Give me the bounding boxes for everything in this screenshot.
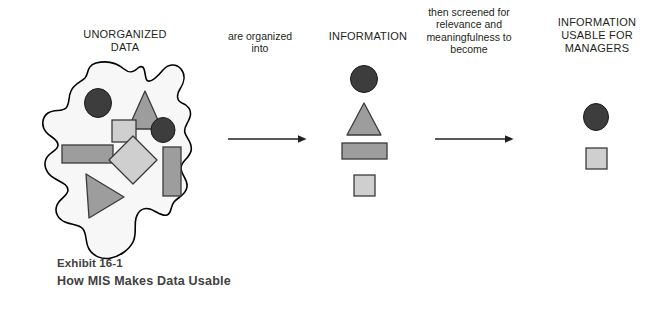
info-shape-rectangle-medium — [342, 143, 387, 159]
info-shape-circle-dark — [351, 66, 378, 93]
exhibit-figure: UNORGANIZED DATA are organized into INFO… — [0, 0, 654, 309]
stage-unorganized-data — [43, 62, 192, 259]
stage-information-usable — [584, 104, 609, 170]
label-then-screened-for-relevance: then screened for relevance and meaningf… — [414, 6, 524, 56]
info-shape-square-light — [354, 175, 375, 196]
caption-exhibit-number: Exhibit 16-1 — [57, 255, 457, 272]
stage-information — [342, 66, 387, 197]
caption-title: How MIS Makes Data Usable — [57, 272, 457, 290]
shape-circle-dark-2 — [151, 118, 175, 143]
usable-shape-square-light — [586, 148, 607, 169]
label-unorganized-data: UNORGANIZED DATA — [60, 28, 190, 54]
label-information-usable-for-managers: INFORMATION USABLE FOR MANAGERS — [540, 16, 654, 55]
usable-shape-circle-dark — [584, 104, 609, 131]
shape-rectangle-medium-wide — [62, 145, 113, 163]
label-are-organized-into: are organized into — [212, 30, 308, 55]
figure-caption: Exhibit 16-1 How MIS Makes Data Usable — [57, 255, 457, 290]
shape-rectangle-medium-tall — [163, 147, 181, 196]
shape-circle-dark — [85, 89, 112, 118]
info-shape-triangle-medium — [347, 103, 381, 135]
label-information: INFORMATION — [312, 30, 424, 43]
